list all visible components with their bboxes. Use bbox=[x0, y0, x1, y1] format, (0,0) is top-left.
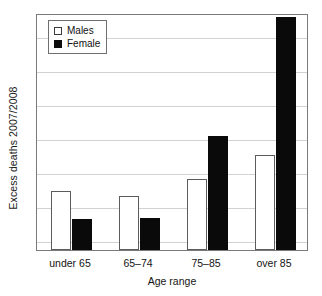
bar-female-over-85 bbox=[276, 17, 296, 250]
bar-males-under-65 bbox=[51, 191, 71, 250]
legend-label-males: Males bbox=[67, 25, 94, 36]
x-axis-title: Age range bbox=[36, 275, 308, 287]
y-axis-title: Excess deaths 2007/2008 bbox=[0, 0, 26, 296]
x-axis-label-65-74: 65–74 bbox=[104, 257, 172, 269]
bar-chart: Excess deaths 2007/2008 Males Female und… bbox=[0, 0, 322, 296]
legend-item-female: Female bbox=[54, 37, 100, 50]
bar-female-under-65 bbox=[72, 219, 92, 250]
open-square-swatch-icon bbox=[54, 27, 62, 35]
bar-males-over-85 bbox=[255, 155, 275, 250]
bar-female-65-74 bbox=[140, 218, 160, 250]
x-axis-label-75-85: 75–85 bbox=[172, 257, 240, 269]
x-axis-tick-labels: under 6565–7475–85over 85 bbox=[36, 257, 308, 273]
chart-legend: Males Female bbox=[48, 20, 107, 54]
x-axis-label-over-85: over 85 bbox=[240, 257, 308, 269]
bar-males-75-85 bbox=[187, 179, 207, 250]
legend-item-males: Males bbox=[54, 24, 100, 37]
filled-square-swatch-icon bbox=[54, 40, 62, 48]
bar-female-75-85 bbox=[208, 136, 228, 250]
bar-males-65-74 bbox=[119, 196, 139, 250]
x-axis-label-under-65: under 65 bbox=[36, 257, 104, 269]
legend-label-female: Female bbox=[67, 38, 100, 49]
